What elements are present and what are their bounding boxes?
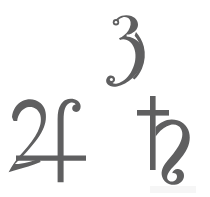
scan-smudge-artifact [150, 186, 196, 193]
numeral-three-glyph [102, 14, 148, 88]
saturn-glyph [136, 94, 200, 186]
image-canvas [0, 0, 210, 197]
saturn-icon [136, 94, 200, 186]
jupiter-icon [8, 98, 92, 184]
numeral-three-icon [102, 14, 148, 88]
jupiter-glyph [8, 98, 92, 184]
